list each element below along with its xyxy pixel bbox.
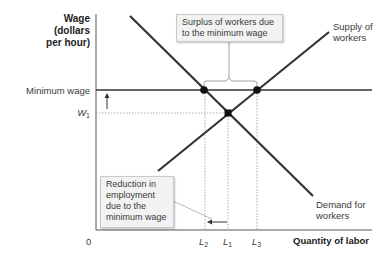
reduction-line2: employment xyxy=(106,190,168,201)
point-l3-min-wage xyxy=(253,86,261,94)
surplus-line1: Surplus of workers due xyxy=(182,17,277,28)
l1-label: L1 xyxy=(223,236,232,250)
point-l2-min-wage xyxy=(200,86,208,94)
supply-label: Supply of workers xyxy=(333,21,373,43)
supply-line1: Supply of xyxy=(333,21,373,32)
l2-sub: 2 xyxy=(204,241,208,248)
supply-curve xyxy=(158,32,329,171)
surplus-line2: to the minimum wage xyxy=(182,28,277,39)
x-axis-title: Quantity of labor xyxy=(293,235,369,246)
w1-main: W xyxy=(77,107,86,118)
l1-sub: 1 xyxy=(228,241,232,248)
reduction-line4: minimum wage xyxy=(106,212,168,223)
l3-sub: 3 xyxy=(257,241,261,248)
l2-label: L2 xyxy=(199,236,208,250)
reduction-line3: due to the xyxy=(106,201,168,212)
surplus-callout: Surplus of workers due to the minimum wa… xyxy=(176,14,283,42)
wage-up-arrowhead xyxy=(105,93,110,98)
supply-line2: workers xyxy=(333,32,373,43)
origin-label: 0 xyxy=(86,236,91,247)
point-equilibrium xyxy=(225,110,232,117)
l3-label: L3 xyxy=(252,236,261,250)
y-title-line2: (dollars xyxy=(30,25,90,37)
y-title-line3: per hour) xyxy=(30,37,90,49)
w1-sub: 1 xyxy=(86,112,90,119)
w1-label: W1 xyxy=(72,107,90,121)
surplus-bracket xyxy=(204,78,257,88)
reduction-line1: Reduction in xyxy=(106,179,168,190)
demand-curve xyxy=(130,16,313,196)
demand-line1: Demand for xyxy=(316,199,366,210)
minimum-wage-label: Minimum wage xyxy=(22,85,90,96)
reduction-connector xyxy=(173,201,212,219)
y-title-line1: Wage xyxy=(30,13,90,25)
reduction-callout: Reduction in employment due to the minim… xyxy=(100,176,174,228)
demand-line2: workers xyxy=(316,210,366,221)
demand-label: Demand for workers xyxy=(316,199,366,221)
y-axis-title: Wage (dollars per hour) xyxy=(30,13,90,49)
employment-left-arrowhead xyxy=(207,220,212,225)
